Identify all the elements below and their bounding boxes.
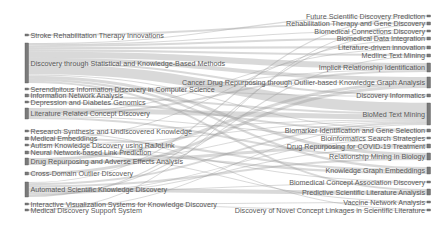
source-node[interactable] bbox=[25, 43, 29, 83]
source-node[interactable] bbox=[25, 144, 29, 146]
target-node[interactable] bbox=[427, 15, 431, 17]
target-node[interactable] bbox=[427, 63, 431, 72]
target-node[interactable] bbox=[427, 201, 431, 203]
target-node[interactable] bbox=[427, 181, 431, 183]
source-node[interactable] bbox=[25, 151, 29, 154]
target-node-label: Implicit Relationship Identification bbox=[319, 63, 425, 72]
target-node-label: Discovery of Novel Concept Linkages in S… bbox=[235, 206, 425, 215]
target-node[interactable] bbox=[427, 137, 431, 139]
target-node-label: Drug Repurposing for COVID-19 Treatment bbox=[287, 142, 425, 151]
target-node-label: Predictive Scientific Literature Analysi… bbox=[302, 188, 425, 197]
source-node-label: Literature Related Concept Discovery bbox=[31, 109, 151, 118]
target-node-label: Medline Text Mining bbox=[362, 51, 425, 60]
target-node[interactable] bbox=[427, 46, 431, 49]
target-node[interactable] bbox=[427, 153, 431, 160]
target-node[interactable] bbox=[427, 189, 431, 195]
target-node-label: Cancer Drug Repurposing through Outlier-… bbox=[182, 78, 425, 87]
target-node[interactable] bbox=[427, 77, 431, 88]
sankey-diagram: Stroke Rehabilitation Therapy Innovation… bbox=[0, 0, 445, 227]
source-node-label: Drug Repurposing and Adverse Effects Ana… bbox=[31, 157, 184, 166]
source-node-label: Automated Scientific Knowledge Discovery bbox=[31, 185, 168, 194]
target-node[interactable] bbox=[427, 37, 431, 40]
target-node-label: Relationship Mining in Biology bbox=[329, 152, 425, 161]
target-node-label: BioMed Text Mining bbox=[362, 110, 425, 119]
source-node[interactable] bbox=[25, 158, 29, 165]
source-node[interactable] bbox=[25, 209, 29, 211]
source-node-label: Medical Discovery Support System bbox=[31, 206, 142, 215]
source-node-label: Depression and Diabetes Genomics bbox=[31, 98, 146, 107]
target-node-label: Knowledge Graph Embeddings bbox=[326, 166, 426, 175]
target-node-label: Biomedical Data Integration bbox=[337, 34, 425, 43]
target-node[interactable] bbox=[427, 129, 431, 132]
source-node[interactable] bbox=[25, 94, 29, 97]
source-node[interactable] bbox=[25, 137, 29, 140]
target-node[interactable] bbox=[427, 209, 431, 211]
target-node[interactable] bbox=[427, 54, 431, 57]
target-node[interactable] bbox=[427, 22, 431, 25]
source-node[interactable] bbox=[25, 34, 29, 36]
source-node[interactable] bbox=[25, 182, 29, 197]
target-node[interactable] bbox=[427, 94, 431, 97]
target-node[interactable] bbox=[427, 103, 431, 125]
source-node[interactable] bbox=[25, 203, 29, 205]
source-node-label: Discovery through Statistical and Knowle… bbox=[31, 59, 226, 68]
source-node-label: Stroke Rehabilitation Therapy Innovation… bbox=[31, 31, 165, 40]
source-node[interactable] bbox=[25, 108, 29, 119]
target-node-label: Biomedical Concept Association Discovery bbox=[289, 178, 425, 187]
target-node[interactable] bbox=[427, 167, 431, 174]
source-node[interactable] bbox=[25, 172, 29, 175]
source-node[interactable] bbox=[25, 88, 29, 90]
source-node[interactable] bbox=[25, 101, 29, 103]
target-node-label: Discovery Informatics bbox=[356, 91, 425, 100]
source-node[interactable] bbox=[25, 130, 29, 132]
source-node-label: Neural Network-based Link Prediction bbox=[31, 148, 152, 157]
source-node-label: Cross-Domain Outlier Discovery bbox=[31, 169, 134, 178]
target-node[interactable] bbox=[427, 30, 431, 32]
target-node[interactable] bbox=[427, 144, 431, 148]
